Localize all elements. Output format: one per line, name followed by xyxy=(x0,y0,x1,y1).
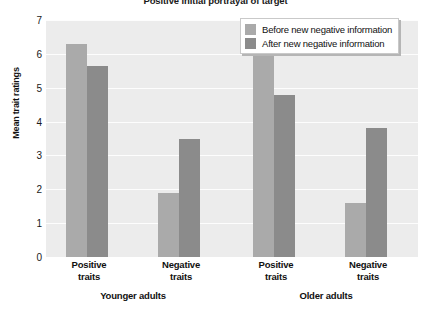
x-tick-younger-negative: Negative traits xyxy=(133,259,229,282)
x-tick-line2: traits xyxy=(41,271,137,283)
y-tick-label-4: 4 xyxy=(16,116,42,127)
legend-label-before: Before new negative information xyxy=(262,24,392,35)
y-tick-label-5: 5 xyxy=(16,82,42,93)
chart-title: Positive initial portrayal of target xyxy=(0,0,431,6)
chart-figure: Positive initial portrayal of target Mea… xyxy=(0,0,431,314)
y-tick-label-2: 2 xyxy=(16,184,42,195)
bar-after-older-negative[interactable] xyxy=(366,128,387,257)
bar-before-older-positive[interactable] xyxy=(253,45,274,257)
bar-after-younger-positive[interactable] xyxy=(87,66,108,257)
x-tick-line1: Negative xyxy=(133,259,229,271)
x-tick-older-negative: Negative traits xyxy=(320,259,416,282)
x-axis-tick-labels: Positive traits Negative traits Positive… xyxy=(46,259,418,291)
x-tick-line1: Negative xyxy=(320,259,416,271)
legend-item-before[interactable]: Before new negative information xyxy=(245,22,392,36)
bar-before-younger-negative[interactable] xyxy=(158,193,179,257)
gridline-6 xyxy=(46,54,418,55)
x-axis-group-labels: Younger adults Older adults xyxy=(46,290,418,306)
x-tick-line2: traits xyxy=(228,271,324,283)
bar-before-younger-positive[interactable] xyxy=(66,44,87,257)
y-tick-label-0: 0 xyxy=(16,252,42,263)
plot-area xyxy=(46,20,418,257)
y-axis-tick-labels: 7 6 5 4 3 2 1 0 xyxy=(12,20,42,257)
y-tick-label-1: 1 xyxy=(16,218,42,229)
y-tick-label-7: 7 xyxy=(16,15,42,26)
x-tick-line1: Positive xyxy=(228,259,324,271)
legend-item-after[interactable]: After new negative information xyxy=(245,36,392,50)
legend-label-after: After new negative information xyxy=(262,38,384,49)
x-tick-line1: Positive xyxy=(41,259,137,271)
x-tick-line2: traits xyxy=(133,271,229,283)
legend-swatch-after-icon xyxy=(245,38,256,49)
bar-after-younger-negative[interactable] xyxy=(179,139,200,258)
chart-legend: Before new negative information After ne… xyxy=(240,18,399,54)
x-tick-line2: traits xyxy=(320,271,416,283)
bar-after-older-positive[interactable] xyxy=(274,95,295,258)
y-tick-label-6: 6 xyxy=(16,48,42,59)
legend-swatch-before-icon xyxy=(245,24,256,35)
group-label-younger-adults: Younger adults xyxy=(43,290,223,301)
group-label-older-adults: Older adults xyxy=(236,290,416,301)
x-tick-younger-positive: Positive traits xyxy=(41,259,137,282)
x-tick-older-positive: Positive traits xyxy=(228,259,324,282)
bar-before-older-negative[interactable] xyxy=(345,203,366,257)
y-tick-label-3: 3 xyxy=(16,150,42,161)
